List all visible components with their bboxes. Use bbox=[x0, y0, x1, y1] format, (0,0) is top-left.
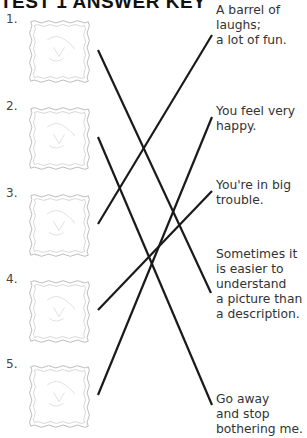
match-line bbox=[98, 137, 212, 405]
match-line bbox=[98, 191, 212, 310]
match-lines bbox=[0, 0, 307, 438]
match-line bbox=[98, 35, 212, 224]
